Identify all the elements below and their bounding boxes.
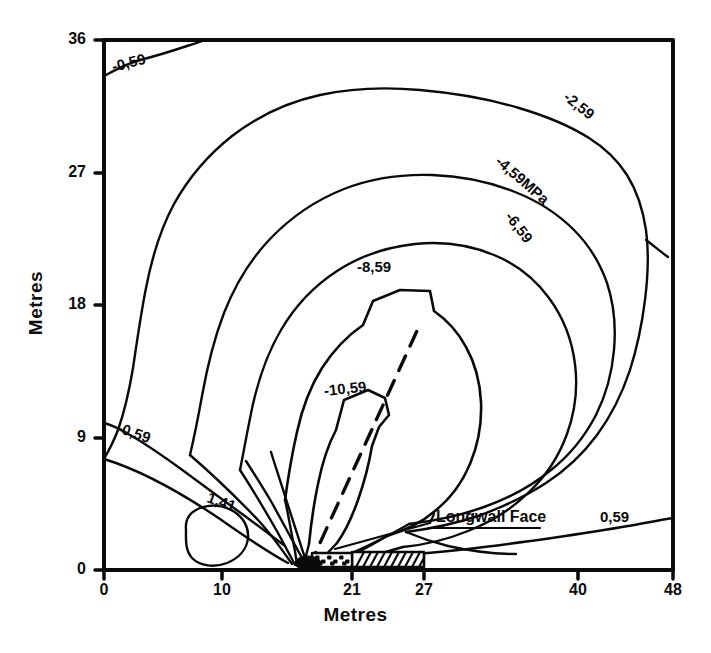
x-axis-title: Metres — [0, 604, 711, 626]
contour-line--2.59-right-wing — [646, 240, 668, 257]
y-tick-label-27: 27 — [42, 163, 86, 181]
contour-island-1.41 — [186, 506, 248, 566]
contour-plot-canvas — [0, 0, 711, 653]
contour-line--2.59 — [104, 88, 648, 532]
contour-label-0.59: 0,59 — [600, 508, 629, 525]
contour-line--0.59-left — [104, 423, 285, 546]
y-tick-label-36: 36 — [42, 30, 86, 48]
contour-fan-upper-left — [246, 452, 308, 567]
x-tick-label-40: 40 — [558, 581, 598, 599]
contour-line--10.59 — [309, 390, 389, 544]
x-tick-label-10: 10 — [202, 581, 242, 599]
y-tick-label-0: 0 — [42, 560, 86, 578]
x-tick-label-0: 0 — [84, 581, 124, 599]
y-tick-label-18: 18 — [42, 295, 86, 313]
x-tick-label-48: 48 — [653, 581, 693, 599]
contour-line--6.59 — [240, 243, 576, 547]
longwall-face-annotation: Longwall Face — [436, 508, 546, 526]
convergence-blob — [295, 556, 321, 570]
y-tick-label-9: 9 — [42, 428, 86, 446]
contour-label--8.59: -8,59 — [357, 258, 391, 275]
x-tick-label-21: 21 — [332, 581, 372, 599]
goaf-hatched-rectangle — [352, 552, 424, 567]
contour-figure: Metres Metres 0 10 21 27 40 48 0 9 18 27… — [0, 0, 711, 653]
x-tick-label-27: 27 — [404, 581, 444, 599]
